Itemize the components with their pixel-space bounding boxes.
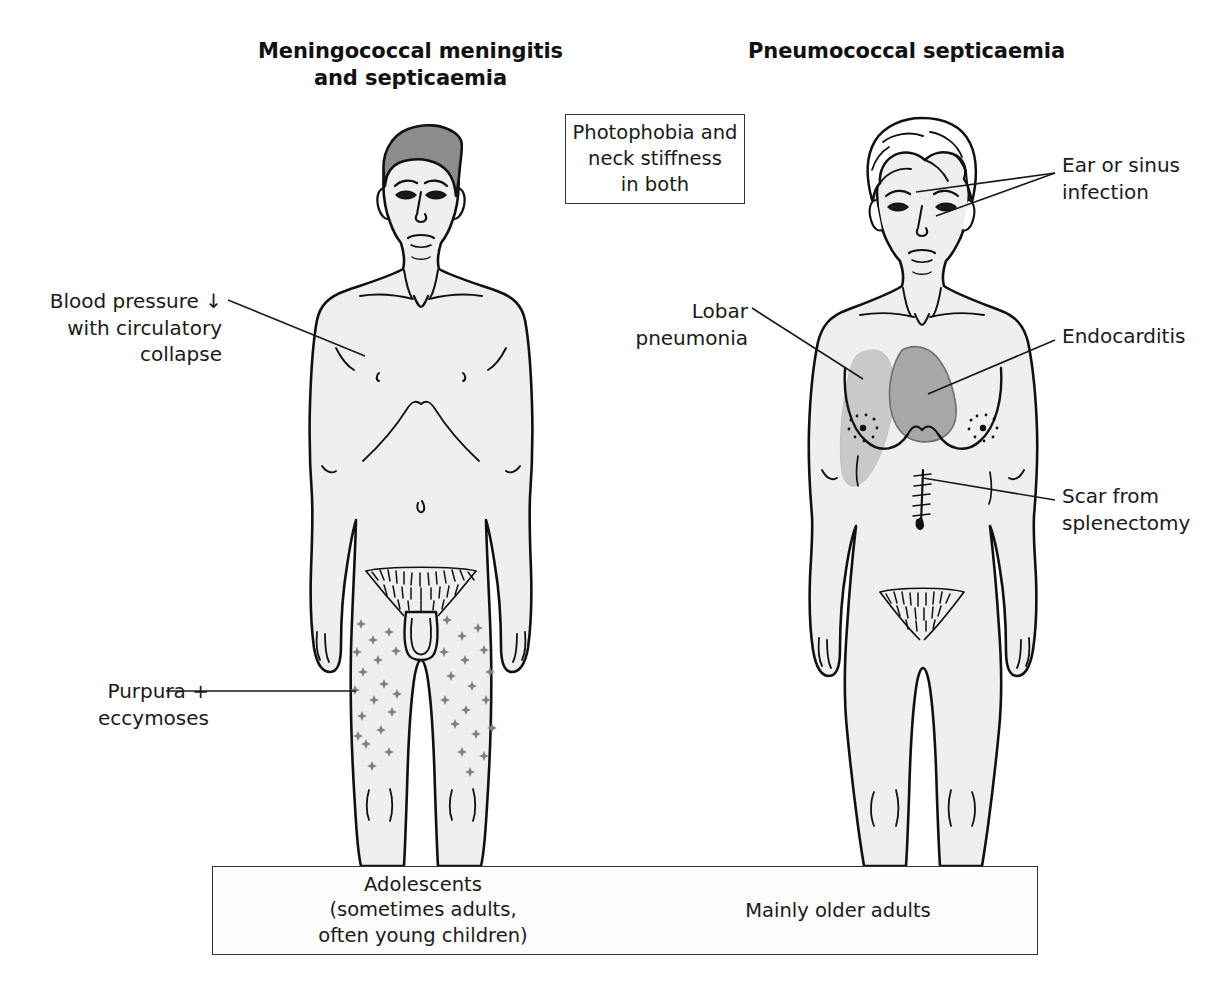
female-eye-left: [888, 203, 908, 211]
label-scar-line2: splenectomy: [1062, 510, 1214, 537]
label-blood-pressure-line3: collapse: [12, 341, 222, 368]
male-body-outline: [310, 131, 533, 866]
label-lobar-line1: Lobar: [570, 298, 748, 325]
label-blood-pressure-line1: Blood pressure ↓: [12, 288, 222, 315]
label-purpura: Purpura + eccymoses: [12, 678, 209, 731]
age-left-line3: often young children): [253, 923, 593, 949]
label-endocarditis-line1: Endocarditis: [1062, 323, 1214, 350]
diagram-canvas: Meningococcal meningitis and septicaemia…: [0, 0, 1219, 986]
label-lobar-line2: pneumonia: [570, 325, 748, 352]
title-right-line1: Pneumococcal septicaemia: [714, 38, 1099, 65]
age-group-box: Adolescents (sometimes adults, often you…: [212, 866, 1038, 955]
title-left-line1: Meningococcal meningitis: [218, 38, 603, 65]
male-eye-right: [426, 191, 446, 199]
female-body-outline: [809, 150, 1038, 866]
label-blood-pressure-line2: with circulatory: [12, 315, 222, 342]
label-ear-line2: infection: [1062, 179, 1214, 206]
column-title-left: Meningococcal meningitis and septicaemia: [218, 38, 603, 92]
male-eye-left: [396, 191, 416, 199]
label-ear-line1: Ear or sinus: [1062, 152, 1214, 179]
age-right-line1: Mainly older adults: [673, 898, 1003, 924]
age-group-left: Adolescents (sometimes adults, often you…: [253, 872, 593, 950]
shared-symptoms-box: Photophobia and neck stiffness in both: [565, 114, 745, 204]
label-purpura-line1: Purpura +: [12, 678, 209, 705]
male-genitalia: [405, 612, 438, 660]
label-scar-splenectomy: Scar from splenectomy: [1062, 483, 1214, 536]
shared-symptoms-line2: neck stiffness: [573, 146, 738, 172]
shared-symptoms-text: Photophobia and neck stiffness in both: [573, 120, 738, 197]
female-umbilicus: [916, 518, 923, 529]
column-title-right: Pneumococcal septicaemia: [714, 38, 1099, 65]
age-left-line2: (sometimes adults,: [253, 898, 593, 924]
title-left-line2: and septicaemia: [218, 65, 603, 92]
age-group-right: Mainly older adults: [673, 898, 1003, 924]
label-purpura-line2: eccymoses: [12, 705, 209, 732]
label-endocarditis: Endocarditis: [1062, 323, 1214, 350]
label-ear-sinus-infection: Ear or sinus infection: [1062, 152, 1214, 205]
shared-symptoms-line1: Photophobia and: [573, 120, 738, 146]
label-scar-line1: Scar from: [1062, 483, 1214, 510]
label-lobar-pneumonia: Lobar pneumonia: [570, 298, 748, 351]
age-left-line1: Adolescents: [253, 872, 593, 898]
male-figure: [310, 125, 533, 866]
shared-symptoms-line3: in both: [573, 172, 738, 198]
label-blood-pressure: Blood pressure ↓ with circulatory collap…: [12, 288, 222, 368]
